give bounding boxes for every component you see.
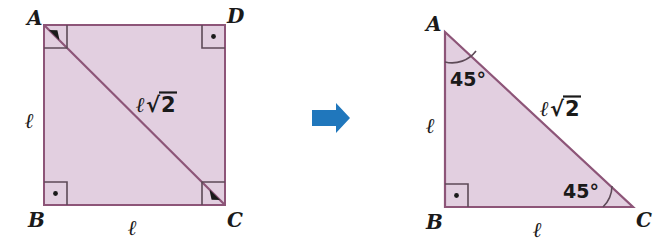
triangle-leg-label-horizontal: ℓ bbox=[533, 217, 542, 242]
geometry-figure: A D B C ℓ ℓ ℓ √ 2 bbox=[0, 0, 662, 242]
triangle-vertex-label-a: A bbox=[424, 12, 442, 36]
triangle-hypotenuse-radicand: 2 bbox=[565, 97, 580, 121]
square-abcd-group: A D B C ℓ ℓ ℓ √ 2 bbox=[25, 4, 245, 240]
triangle-vertex-label-c: C bbox=[636, 208, 652, 232]
triangle-vertex-label-b: B bbox=[425, 210, 443, 234]
square-diagonal-radicand: 2 bbox=[161, 93, 176, 117]
square-side-label-bottom: ℓ bbox=[128, 215, 137, 240]
figure-canvas: A D B C ℓ ℓ ℓ √ 2 bbox=[0, 0, 662, 242]
triangle-leg-label-vertical: ℓ bbox=[426, 113, 435, 138]
square-vertex-label-c: C bbox=[227, 208, 243, 232]
triangle-abc-shape bbox=[445, 32, 633, 207]
square-vertex-label-a: A bbox=[25, 6, 43, 30]
triangle-abc-group: A B C ℓ ℓ 45° 45° ℓ √ 2 bbox=[424, 12, 652, 242]
square-diagonal-radical: √ bbox=[146, 93, 161, 117]
triangle-angle-label-c: 45° bbox=[563, 180, 599, 202]
square-diagonal-label: ℓ √ 2 bbox=[136, 92, 177, 117]
triangle-hypotenuse-symbol: ℓ bbox=[540, 96, 549, 121]
triangle-hypotenuse-radical: √ bbox=[550, 97, 565, 121]
square-side-label-left: ℓ bbox=[25, 108, 34, 133]
triangle-angle-label-a: 45° bbox=[450, 68, 486, 90]
triangle-hypotenuse-label: ℓ √ 2 bbox=[540, 96, 581, 121]
transform-arrow-group bbox=[312, 103, 350, 133]
arrow-right-icon bbox=[312, 103, 350, 133]
square-vertex-label-b: B bbox=[27, 208, 45, 232]
square-vertex-label-d: D bbox=[226, 4, 245, 28]
square-diagonal-symbol: ℓ bbox=[136, 92, 145, 117]
